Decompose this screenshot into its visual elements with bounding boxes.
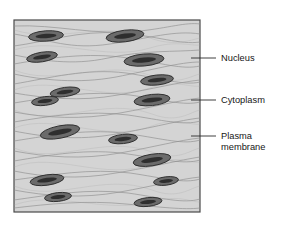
tissue-block: [14, 20, 200, 212]
smooth-muscle-tissue-figure: NucleusCytoplasmPlasmamembrane: [0, 0, 284, 225]
label-nucleus: Nucleus: [221, 53, 255, 63]
label-plasma-membrane-line-2: membrane: [221, 142, 265, 152]
label-plasma-membrane-line-1: Plasma: [221, 131, 253, 141]
tissue-diagram-canvas: NucleusCytoplasmPlasmamembrane: [0, 0, 284, 225]
label-cytoplasm: Cytoplasm: [221, 95, 265, 105]
label-cytoplasm-line-1: Cytoplasm: [221, 95, 265, 105]
label-nucleus-line-1: Nucleus: [221, 53, 255, 63]
